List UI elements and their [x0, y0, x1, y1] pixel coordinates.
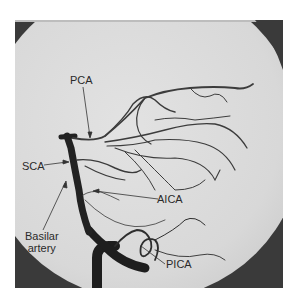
sca-label: SCA: [22, 160, 45, 172]
angiogram-image: PCA SCA AICA Basilar artery PICA: [15, 20, 283, 288]
pica-label: PICA: [166, 258, 192, 270]
aica-label: AICA: [157, 193, 183, 205]
basilar-label-line2: artery: [25, 242, 59, 254]
basilar-label-line1: Basilar: [25, 230, 59, 242]
pca-label: PCA: [70, 74, 93, 86]
basilar-label: Basilar artery: [25, 230, 59, 254]
